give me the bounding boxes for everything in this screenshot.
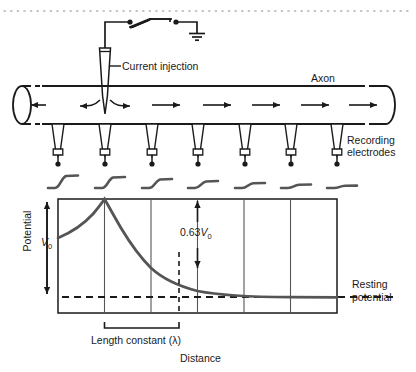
- resting-potential-label-line2: potential: [352, 291, 392, 303]
- voltage-trace-6: [281, 185, 311, 189]
- axon-cable-properties-figure: [0, 0, 416, 372]
- v0-subscript: 0: [48, 242, 52, 251]
- recording-electrode-2: [99, 124, 111, 167]
- current-flow-arrows: [31, 100, 377, 106]
- recording-electrode-7: [331, 124, 343, 167]
- x-axis-label: Distance: [180, 352, 221, 364]
- voltage-trace-5: [235, 183, 265, 188]
- recording-electrodes-label-line1: Recording: [347, 134, 395, 146]
- axon-label: Axon: [311, 72, 335, 84]
- recording-electrode-5: [239, 124, 251, 167]
- sixty-three-percent-label: 0.63V0: [180, 226, 212, 241]
- current-injection-electrode: [100, 48, 111, 114]
- axon-left-cap: [13, 86, 31, 124]
- recording-electrode-3: [146, 124, 158, 167]
- voltage-trace-4: [188, 181, 218, 188]
- voltage-trace-1: [48, 176, 78, 189]
- ground-wire: [176, 22, 197, 33]
- voltage-trace-7: [327, 186, 357, 188]
- v0-label: V0: [41, 236, 52, 251]
- resting-potential-label-line1: Resting: [352, 278, 388, 290]
- sixty-three-prefix: 0.63: [180, 226, 200, 238]
- voltage-trace-2: [95, 177, 125, 188]
- length-constant-bracket: [105, 322, 180, 328]
- v0-symbol: V: [41, 236, 48, 248]
- switch-lever[interactable]: [130, 20, 150, 28]
- voltage-traces: [48, 176, 357, 189]
- voltage-trace-3: [142, 179, 172, 188]
- recording-electrode-1: [52, 124, 64, 167]
- length-constant-label: Length constant (λ): [91, 334, 181, 346]
- ground-icon: [189, 34, 205, 41]
- recording-electrodes-label-line2: electrodes: [347, 146, 395, 158]
- sixty-three-subscript: 0: [207, 232, 211, 241]
- recording-electrode-6: [285, 124, 297, 167]
- recording-electrode-4: [192, 124, 204, 167]
- switch-contact-left[interactable]: [127, 19, 132, 24]
- current-injection-label: Current injection: [122, 60, 198, 72]
- y-axis-label: Potential: [21, 196, 33, 266]
